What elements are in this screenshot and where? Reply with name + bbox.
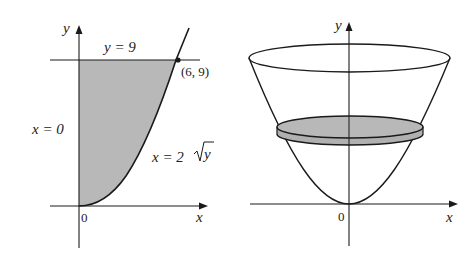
right-y-axis-label: y xyxy=(333,17,342,33)
svg-text:x = 2: x = 2 xyxy=(151,149,184,165)
disk-top-face xyxy=(277,116,423,138)
label-x-equals-0: x = 0 xyxy=(31,121,64,137)
right-origin-label: 0 xyxy=(338,209,345,224)
label-y-equals-9: y = 9 xyxy=(102,39,136,55)
y-axis-arrow-icon xyxy=(76,25,83,34)
right-panel: y x 0 xyxy=(249,17,458,246)
point-6-9 xyxy=(175,57,180,62)
left-y-axis-label: y xyxy=(61,20,70,36)
shaded-region xyxy=(79,60,176,206)
left-origin-label: 0 xyxy=(81,210,88,225)
right-y-axis-arrow-icon xyxy=(346,22,353,31)
svg-text:y: y xyxy=(202,146,211,162)
left-panel: y x 0 y = 9 x = 0 (6, 9) x = 2 y xyxy=(31,20,214,248)
right-x-axis-arrow-icon xyxy=(449,201,458,208)
figure: y x 0 y = 9 x = 0 (6, 9) x = 2 y xyxy=(0,0,468,260)
left-x-axis-label: x xyxy=(195,209,203,225)
label-x-equals-2-sqrt-y: x = 2 y xyxy=(151,142,214,165)
label-point-6-9: (6, 9) xyxy=(181,64,209,79)
right-x-axis-label: x xyxy=(445,209,453,225)
